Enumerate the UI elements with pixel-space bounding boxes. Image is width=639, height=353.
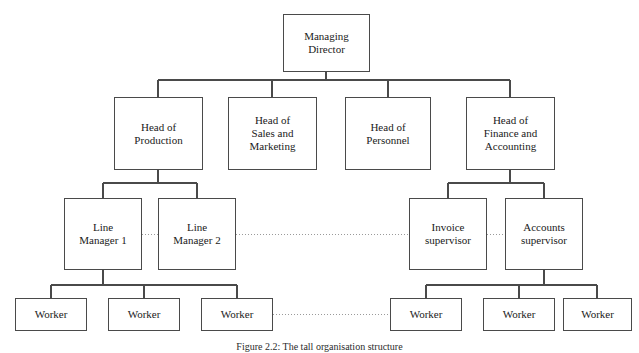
- org-node-head-of-personnel[interactable]: Head of Personnel: [345, 97, 431, 170]
- org-node-line-manager-2[interactable]: Line Manager 2: [158, 198, 236, 270]
- org-node-head-of-finance-and-accounting[interactable]: Head of Finance and Accounting: [466, 97, 555, 170]
- org-node-label: Line Manager 1: [77, 221, 128, 247]
- org-node-label: Invoice supervisor: [423, 221, 473, 247]
- org-node-line-manager-1[interactable]: Line Manager 1: [64, 198, 142, 270]
- org-node-label: Managing Director: [302, 30, 351, 56]
- org-node-label: Head of Sales and Marketing: [248, 114, 298, 153]
- org-node-worker-3[interactable]: Worker: [201, 298, 273, 331]
- org-node-managing-director[interactable]: Managing Director: [283, 14, 370, 72]
- org-node-accounts-supervisor[interactable]: Accounts supervisor: [505, 198, 583, 270]
- org-node-worker-2[interactable]: Worker: [108, 298, 180, 331]
- org-node-label: Head of Personnel: [364, 121, 411, 147]
- org-node-head-of-sales-and-marketing[interactable]: Head of Sales and Marketing: [228, 97, 317, 170]
- org-node-worker-6[interactable]: Worker: [563, 298, 632, 331]
- org-node-label: Head of Production: [132, 121, 184, 147]
- org-node-label: Worker: [33, 308, 70, 321]
- org-node-label: Worker: [501, 308, 538, 321]
- org-node-label: Worker: [126, 308, 163, 321]
- org-node-label: Accounts supervisor: [519, 221, 569, 247]
- org-node-worker-4[interactable]: Worker: [390, 298, 462, 331]
- org-node-head-of-production[interactable]: Head of Production: [114, 97, 203, 170]
- org-node-worker-5[interactable]: Worker: [483, 298, 555, 331]
- figure-caption: Figure 2.2: The tall organisation struct…: [0, 341, 639, 352]
- org-node-label: Worker: [408, 308, 445, 321]
- org-node-label: Worker: [219, 308, 256, 321]
- org-node-label: Worker: [579, 308, 616, 321]
- org-node-invoice-supervisor[interactable]: Invoice supervisor: [409, 198, 487, 270]
- org-node-label: Line Manager 2: [171, 221, 222, 247]
- org-chart-figure: Managing DirectorHead of ProductionHead …: [0, 0, 639, 353]
- org-node-label: Head of Finance and Accounting: [482, 114, 539, 153]
- org-node-worker-1[interactable]: Worker: [15, 298, 87, 331]
